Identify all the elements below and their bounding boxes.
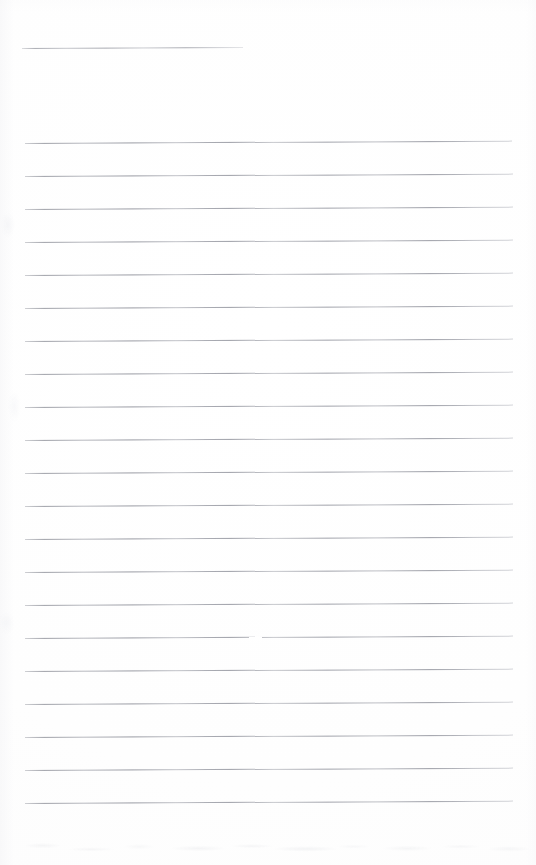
scan-noise-left-edge [0, 0, 26, 865]
ruled-line [25, 174, 513, 177]
ruled-line [25, 669, 513, 672]
ruled-line [25, 141, 512, 144]
ruled-line [25, 801, 513, 804]
ruled-line [25, 537, 513, 540]
ruled-line [25, 702, 513, 705]
ruled-line [25, 570, 513, 573]
paper-vignette [0, 0, 536, 865]
ruled-line [25, 306, 513, 309]
ruled-line [25, 603, 513, 606]
ruled-line [25, 636, 513, 639]
ruled-line [25, 471, 513, 474]
ruled-line-stroke-gap [249, 637, 262, 640]
ruled-line [25, 273, 513, 276]
ruled-line [25, 207, 513, 210]
ruled-line [25, 339, 513, 342]
ruled-line [25, 504, 513, 507]
ruled-lines-layer [0, 0, 536, 865]
scanned-page [0, 0, 536, 865]
ruled-line [25, 405, 513, 408]
ruled-line [25, 768, 513, 771]
ruled-line [25, 438, 513, 441]
scan-noise-bottom-edge [0, 819, 536, 865]
ruled-line [25, 372, 513, 375]
ruled-line [25, 735, 513, 738]
ruled-line [25, 240, 513, 243]
ruled-line-header [22, 47, 243, 49]
